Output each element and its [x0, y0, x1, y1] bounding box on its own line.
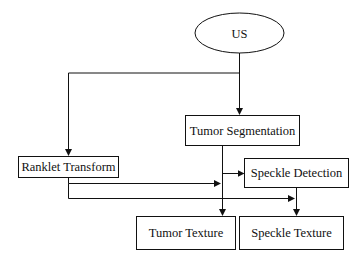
flowchart-canvas: US Tumor Segmentation Ranklet Transform …	[0, 0, 364, 262]
node-tumor-texture: Tumor Texture	[137, 217, 236, 250]
edge-ranklet-transform-to-tumor-texture	[69, 178, 221, 184]
node-us: US	[195, 13, 284, 53]
node-tumor-segmentation: Tumor Segmentation	[186, 116, 300, 146]
node-ranklet-transform: Ranklet Transform	[19, 157, 119, 178]
node-speckle-detection: Speckle Detection	[245, 159, 349, 188]
node-speckle-texture-label: Speckle Texture	[251, 226, 332, 240]
node-tumor-texture-label: Tumor Texture	[149, 226, 224, 240]
node-ranklet-transform-label: Ranklet Transform	[21, 160, 115, 174]
node-us-label: US	[232, 27, 248, 41]
node-speckle-detection-label: Speckle Detection	[251, 166, 343, 180]
node-speckle-texture: Speckle Texture	[240, 217, 344, 250]
node-tumor-segmentation-label: Tumor Segmentation	[190, 124, 296, 138]
